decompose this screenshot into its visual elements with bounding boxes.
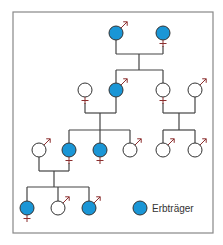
diagram-frame	[13, 12, 213, 233]
male-symbol-icon	[121, 22, 127, 28]
female-individual	[78, 83, 92, 104]
female-individual-carrier	[20, 201, 34, 222]
male-individual	[188, 79, 206, 97]
carrier-circle-icon	[156, 26, 170, 40]
female-individual-carrier	[62, 143, 76, 164]
male-individual	[188, 139, 206, 157]
carrier-circle-icon	[20, 201, 34, 215]
male-individual	[32, 139, 50, 157]
male-symbol-icon	[200, 79, 206, 85]
male-individual	[156, 139, 174, 157]
carrier-legend-icon	[133, 201, 147, 215]
male-symbol-icon	[168, 139, 174, 145]
female-individual	[156, 83, 170, 104]
male-symbol-icon	[63, 197, 69, 203]
pedigree-diagram: Erbträger	[0, 0, 223, 245]
male-symbol-icon	[44, 139, 50, 145]
carrier-circle-icon	[93, 143, 107, 157]
male-symbol-icon	[94, 197, 100, 203]
female-symbol-icon	[97, 157, 104, 164]
carrier-circle-icon	[62, 143, 76, 157]
circle-icon	[78, 83, 92, 97]
male-individual-carrier	[82, 197, 100, 215]
female-symbol-icon	[160, 40, 167, 47]
male-individual-carrier	[109, 22, 127, 40]
male-symbol-icon	[121, 79, 127, 85]
male-symbol-icon	[135, 139, 141, 145]
legend: Erbträger	[133, 201, 194, 215]
relationship-lines	[27, 40, 195, 201]
circle-icon	[156, 83, 170, 97]
female-symbol-icon	[66, 157, 73, 164]
female-symbol-icon	[24, 215, 31, 222]
male-symbol-icon	[200, 139, 206, 145]
female-symbol-icon	[160, 97, 167, 104]
female-individual-carrier	[93, 143, 107, 164]
individuals	[20, 22, 206, 222]
legend-label: Erbträger	[152, 203, 194, 214]
male-individual-carrier	[109, 79, 127, 97]
male-individual	[51, 197, 69, 215]
male-individual	[123, 139, 141, 157]
female-symbol-icon	[82, 97, 89, 104]
female-individual-carrier	[156, 26, 170, 47]
